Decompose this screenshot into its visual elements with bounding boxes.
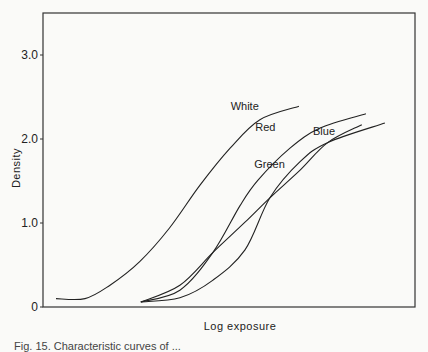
plot-frame [43, 13, 415, 307]
y-axis-label: Density [10, 148, 22, 188]
y-tick-label: 3.0 [21, 48, 38, 62]
x-axis-label: Log exposure [204, 320, 277, 332]
label-white: White [231, 100, 259, 112]
y-tick-label: 2.0 [21, 132, 38, 146]
figure-caption: Fig. 15. Characteristic curves of ... [14, 340, 181, 352]
y-tick-label: 0 [31, 300, 38, 314]
curves [56, 106, 385, 302]
y-axis-ticks: 01.02.03.0 [21, 48, 43, 314]
label-green: Green [254, 158, 285, 170]
curve-blue [141, 125, 362, 302]
curve-white [56, 106, 299, 299]
y-tick-label: 1.0 [21, 216, 38, 230]
label-red: Red [255, 121, 275, 133]
label-blue: Blue [313, 125, 335, 137]
curve-green [141, 123, 385, 302]
curve-red [141, 114, 366, 302]
